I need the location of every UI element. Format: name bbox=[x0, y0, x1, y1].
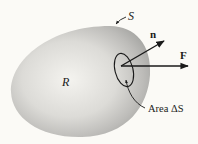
diagram-canvas bbox=[0, 0, 198, 144]
normal-label: n bbox=[150, 29, 156, 40]
surface-pointer-arrow bbox=[116, 17, 126, 24]
region-blob bbox=[11, 26, 150, 137]
surface-label: S bbox=[128, 10, 134, 22]
force-label: F bbox=[180, 50, 187, 61]
area-label: Area ΔS bbox=[148, 104, 184, 115]
region-label: R bbox=[62, 76, 69, 88]
